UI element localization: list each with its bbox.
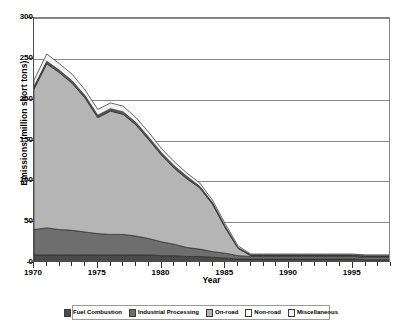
x-tick-mark <box>275 262 276 266</box>
legend-label: Miscellaneous <box>297 309 338 316</box>
legend-swatch-icon <box>129 309 136 317</box>
legend-item: Industrial Processing <box>129 309 199 317</box>
x-tick-mark <box>377 262 378 266</box>
x-tick-mark <box>199 262 200 266</box>
x-tick-mark <box>263 262 264 266</box>
legend-item: Fuel Combustion <box>64 309 122 317</box>
x-tick-mark <box>314 262 315 266</box>
x-tick-mark <box>326 262 327 266</box>
plot-area <box>33 17 390 262</box>
area-series-on-road <box>34 64 390 258</box>
stacked-area-series <box>34 18 390 262</box>
legend-swatch-icon <box>206 309 213 317</box>
legend-label: Fuel Combustion <box>73 309 122 316</box>
x-tick-mark <box>135 262 136 266</box>
x-tick-mark <box>237 262 238 266</box>
x-tick-mark <box>365 262 366 266</box>
emissions-stacked-area-chart: Emissions (million short tons) 050100150… <box>0 0 402 332</box>
x-tick-mark <box>390 262 391 266</box>
legend-item: Miscellaneous <box>288 309 338 317</box>
x-axis-title: Year <box>33 275 390 285</box>
legend-item: Non-road <box>245 309 281 317</box>
x-tick-mark <box>339 262 340 266</box>
y-axis-ticks: 050100150200250300 <box>0 0 33 262</box>
legend-label: On-road <box>215 309 238 316</box>
x-tick-mark <box>46 262 47 266</box>
x-tick-mark <box>173 262 174 266</box>
x-tick-mark <box>110 262 111 266</box>
x-tick-mark <box>59 262 60 266</box>
x-tick-mark <box>148 262 149 266</box>
x-tick-mark <box>250 262 251 266</box>
x-tick-mark <box>212 262 213 266</box>
x-tick-mark <box>301 262 302 266</box>
legend-item: On-road <box>206 309 238 317</box>
chart-legend: Fuel CombustionIndustrial ProcessingOn-r… <box>72 305 330 320</box>
legend-swatch-icon <box>288 309 295 317</box>
legend-swatch-icon <box>245 309 252 317</box>
legend-label: Industrial Processing <box>138 309 199 316</box>
x-tick-mark <box>71 262 72 266</box>
legend-swatch-icon <box>64 309 71 317</box>
x-tick-mark <box>186 262 187 266</box>
x-tick-mark <box>84 262 85 266</box>
x-tick-mark <box>122 262 123 266</box>
legend-label: Non-road <box>254 309 281 316</box>
